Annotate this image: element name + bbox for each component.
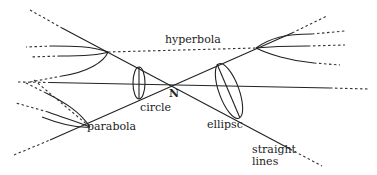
label-hyperbola: hyperbola [165, 33, 221, 46]
label-ellipse: ellipsc [207, 118, 243, 131]
hyperbola-left-branch [26, 46, 108, 82]
hyperbola-plane [108, 48, 256, 52]
ellipse-section [210, 60, 249, 121]
parabola-plane [34, 80, 90, 127]
label-lines: lines [252, 155, 279, 168]
label-apex-n: N [169, 87, 179, 100]
cone-axis [18, 82, 368, 89]
conic-sections-diagram: hyperbola circle N parabola ellipsc stra… [0, 0, 377, 175]
circle-section [133, 67, 145, 99]
parabola-curve [16, 82, 90, 127]
hyperbola-right-branch [256, 31, 345, 65]
label-circle: circle [140, 101, 171, 114]
label-parabola: parabola [87, 120, 137, 133]
